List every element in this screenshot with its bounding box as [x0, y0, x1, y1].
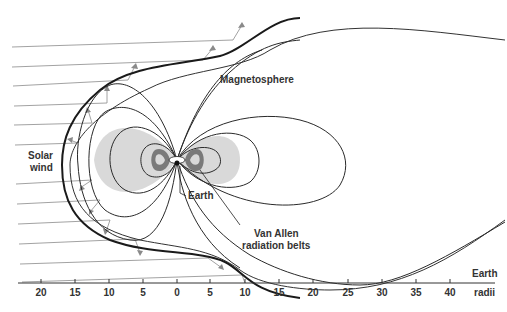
van-allen-label-1: Van Allen: [254, 228, 299, 240]
axis-unit-label-2: radii: [474, 287, 495, 299]
axis-tick-label: 25: [342, 287, 353, 298]
axis-tick-label: 40: [444, 287, 455, 298]
axis-tick-label: 20: [307, 287, 318, 298]
solar-wind-label-1: Solar: [28, 150, 53, 162]
earth-label: Earth: [188, 190, 214, 202]
axis-tick-label: 10: [103, 287, 114, 298]
axis-tick-label: 5: [207, 287, 213, 298]
magnetosphere-diagram: Magnetosphere Solar wind Earth Van Allen…: [0, 0, 507, 312]
axis-tick-label: 5: [140, 287, 146, 298]
van-allen-label-2: radiation belts: [242, 240, 310, 252]
diagram-graphic: [0, 0, 507, 312]
axis-tick-label: 10: [239, 287, 250, 298]
axis-tick-label: 30: [376, 287, 387, 298]
axis-unit-label-1: Earth: [472, 268, 498, 280]
magnetosphere-label: Magnetosphere: [220, 74, 294, 86]
axis-tick-label: 15: [273, 287, 284, 298]
axis-tick-label: 15: [69, 287, 80, 298]
axis-tick-label: 35: [410, 287, 421, 298]
axis-tick-label: 0: [174, 287, 180, 298]
axis-tick-label: 20: [35, 287, 46, 298]
solar-wind-label-2: wind: [30, 162, 53, 174]
